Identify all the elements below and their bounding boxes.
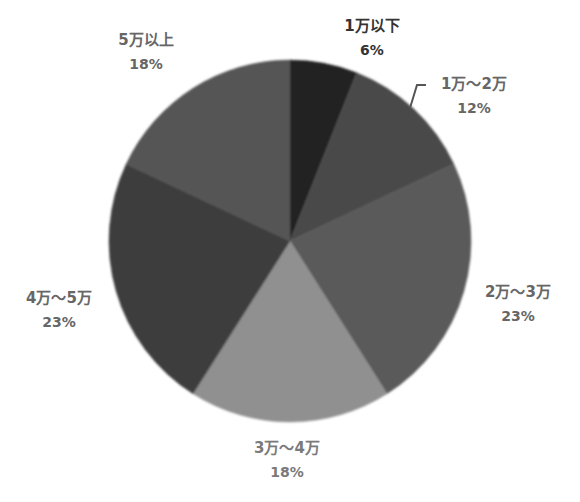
label-percent: 12%	[441, 96, 507, 120]
label-name: 5万以上	[118, 28, 173, 52]
label-30k-40k: 3万～4万 18%	[254, 436, 320, 484]
label-20k-30k: 2万～3万 23%	[485, 280, 551, 328]
label-name: 1万～2万	[441, 72, 507, 96]
leader-line	[410, 85, 426, 108]
label-percent: 23%	[485, 304, 551, 328]
label-percent: 18%	[118, 52, 173, 76]
label-percent: 6%	[344, 38, 399, 62]
label-name: 4万～5万	[26, 286, 92, 310]
label-name: 2万～3万	[485, 280, 551, 304]
label-percent: 23%	[26, 310, 92, 334]
label-10k-20k: 1万～2万 12%	[441, 72, 507, 120]
pie-chart: 1万以下 6% 1万～2万 12% 2万～3万 23% 3万～4万 18% 4万…	[0, 0, 580, 502]
label-percent: 18%	[254, 460, 320, 484]
label-name: 3万～4万	[254, 436, 320, 460]
label-over-50k: 5万以上 18%	[118, 28, 173, 76]
label-name: 1万以下	[344, 14, 399, 38]
label-under-10k: 1万以下 6%	[344, 14, 399, 62]
label-40k-50k: 4万～5万 23%	[26, 286, 92, 334]
